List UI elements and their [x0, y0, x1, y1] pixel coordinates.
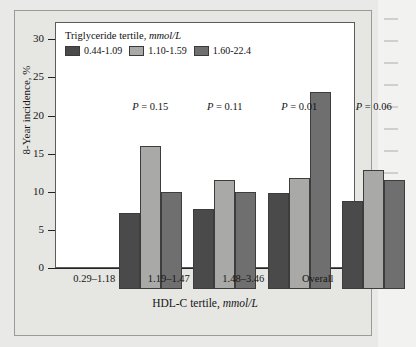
bar [363, 170, 384, 289]
bar [140, 146, 161, 289]
p-value-number: = 0.06 [362, 101, 392, 112]
x-axis-category-label: 0.29–1.18 [57, 273, 132, 284]
bars-layer: P = 0.15P = 0.11P = 0.01P = 0.06 [113, 45, 411, 289]
page-edge-streak [384, 40, 398, 42]
x-axis-title-units: mmol/L [223, 297, 258, 309]
y-axis-tick [48, 116, 55, 117]
legend-title-units: mmol/L [149, 30, 181, 41]
bar-group: P = 0.11 [188, 45, 263, 289]
legend-title: Triglyceride tertile, mmol/L [65, 29, 315, 42]
page-edge-streak [384, 18, 398, 20]
x-axis-title: HDL-C tertile, mmol/L [55, 297, 355, 309]
x-axis-category-label: 1.48–3.46 [206, 273, 281, 284]
p-value-number: = 0.11 [213, 101, 242, 112]
figure-container: 051015202530 8-Year incidence, % Triglyc… [0, 0, 416, 347]
bar-group: P = 0.06 [337, 45, 412, 289]
bar-group: P = 0.15 [113, 45, 188, 289]
y-axis-tick-label: 5 [22, 223, 44, 235]
p-value-annotation: P = 0.01 [262, 101, 337, 112]
bar-group: P = 0.01 [262, 45, 337, 289]
y-axis-tick-label: 0 [22, 261, 44, 273]
bar [310, 92, 331, 289]
p-value-annotation: P = 0.11 [188, 101, 263, 112]
y-axis-tick [48, 39, 55, 40]
p-value-number: = 0.15 [139, 101, 169, 112]
p-value-annotation: P = 0.15 [113, 101, 188, 112]
plot-panel: Triglyceride tertile, mmol/L 0.44-1.091.… [55, 22, 355, 268]
p-value-annotation: P = 0.06 [337, 101, 412, 112]
x-axis-title-text: HDL-C tertile, [152, 297, 223, 309]
y-axis-tick [48, 268, 55, 269]
y-axis-tick [48, 230, 55, 231]
y-axis-tick-label: 10 [22, 185, 44, 197]
p-value-number: = 0.01 [288, 101, 318, 112]
y-axis-tick [48, 154, 55, 155]
bar [384, 180, 405, 289]
legend-swatch-icon [65, 46, 80, 56]
x-axis-category-label: Overall [281, 273, 356, 284]
y-axis-title: 8-Year incidence, % [20, 35, 32, 185]
y-axis-tick [48, 77, 55, 78]
legend-title-text: Triglyceride tertile, [65, 30, 149, 41]
y-axis-tick [48, 192, 55, 193]
x-axis-category-label: 1.19–1.47 [132, 273, 207, 284]
